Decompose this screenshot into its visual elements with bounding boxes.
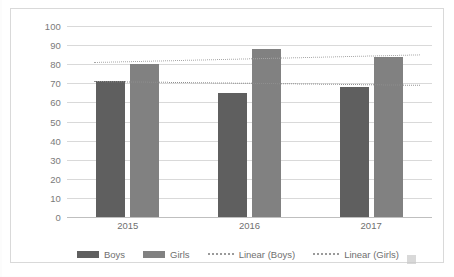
- chart-container: 0102030405060708090100 201520162017 Boys…: [10, 8, 444, 263]
- legend-marker-icon: [208, 253, 234, 255]
- x-axis-label-2016: 2016: [239, 220, 260, 231]
- y-axis-tick-label: 70: [50, 78, 61, 89]
- legend-marker-icon: [313, 253, 339, 255]
- legend-marker-icon: [77, 251, 99, 258]
- legend-item-linear-girls[interactable]: Linear (Girls): [313, 249, 399, 260]
- legend-item-girls[interactable]: Girls: [143, 249, 190, 260]
- bar-girls-2017: [374, 57, 403, 217]
- y-axis-tick-label: 100: [45, 21, 61, 32]
- legend-marker-icon: [143, 251, 165, 258]
- gridline: [67, 217, 432, 218]
- legend-label: Linear (Girls): [344, 249, 399, 260]
- bar-boys-2016: [218, 93, 247, 217]
- y-axis-tick-label: 0: [56, 212, 61, 223]
- legend-item-boys[interactable]: Boys: [77, 249, 125, 260]
- y-axis-tick-label: 80: [50, 59, 61, 70]
- x-axis-label-2017: 2017: [361, 220, 382, 231]
- bar-girls-2015: [130, 64, 159, 217]
- chart-legend: BoysGirlsLinear (Boys)Linear (Girls): [21, 245, 454, 263]
- page-corner-artifact: [407, 255, 416, 264]
- y-axis-tick-label: 30: [50, 154, 61, 165]
- y-axis-tick-label: 20: [50, 173, 61, 184]
- y-axis-tick-label: 90: [50, 40, 61, 51]
- x-axis-category-labels: 201520162017: [67, 220, 432, 238]
- y-axis-tick-labels: 0102030405060708090100: [23, 26, 61, 217]
- bar-girls-2016: [252, 49, 281, 217]
- legend-label: Girls: [170, 249, 190, 260]
- y-axis-tick-label: 40: [50, 135, 61, 146]
- legend-label: Boys: [104, 249, 125, 260]
- y-axis-tick-label: 60: [50, 97, 61, 108]
- x-axis-label-2015: 2015: [117, 220, 138, 231]
- legend-label: Linear (Boys): [239, 249, 296, 260]
- bar-boys-2017: [340, 87, 369, 217]
- y-axis-tick-label: 50: [50, 116, 61, 127]
- legend-item-linear-boys[interactable]: Linear (Boys): [208, 249, 296, 260]
- plot-area: [67, 26, 432, 217]
- bar-boys-2015: [96, 81, 125, 217]
- y-axis-tick-label: 10: [50, 192, 61, 203]
